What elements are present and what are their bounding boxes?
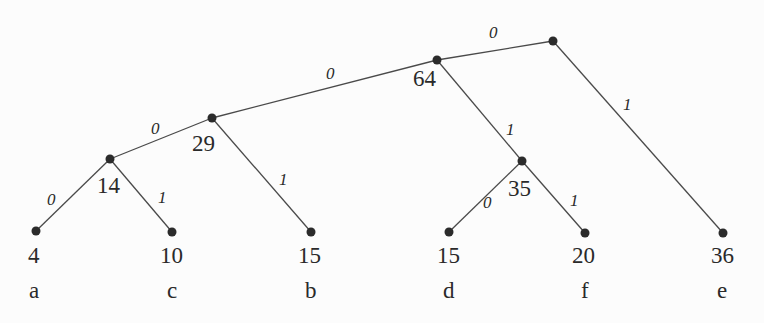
bit-label-n14-c: 1 — [158, 189, 167, 206]
edge-n29-b — [212, 118, 311, 232]
node-root — [549, 37, 558, 46]
nodes — [32, 37, 728, 238]
leaf-symbol-d: d — [443, 279, 455, 302]
leaf-symbol-b: b — [305, 279, 317, 302]
node-leaf-f — [581, 229, 590, 238]
tree-graphics — [0, 0, 764, 323]
node-leaf-d — [445, 228, 454, 237]
leaf-weight-e: 36 — [711, 244, 734, 267]
bit-label-n14-a: 0 — [47, 191, 56, 208]
bit-label-n35-d: 0 — [483, 194, 492, 211]
node-n35 — [518, 157, 527, 166]
bit-label-n29-n14: 0 — [151, 120, 160, 137]
bit-label-n35-f: 1 — [570, 192, 579, 209]
bit-label-n64-n35: 1 — [506, 121, 515, 138]
huffman-tree-diagram: 64 29 14 35 0 1 0 1 0 1 0 1 0 1 4 10 15 … — [0, 0, 764, 323]
bit-label-root-e: 1 — [623, 96, 632, 113]
leaf-symbol-c: c — [167, 279, 177, 302]
node-leaf-a — [32, 227, 41, 236]
internal-weight-n64: 64 — [413, 67, 436, 90]
leaf-weight-b: 15 — [298, 244, 321, 267]
node-leaf-b — [307, 228, 316, 237]
leaf-symbol-e: e — [717, 279, 727, 302]
leaf-symbol-a: a — [29, 279, 39, 302]
edges — [36, 41, 723, 233]
leaf-symbol-f: f — [581, 279, 589, 302]
leaf-weight-c: 10 — [160, 244, 183, 267]
internal-weight-n29: 29 — [192, 132, 215, 155]
node-n64 — [433, 56, 442, 65]
node-leaf-e — [719, 229, 728, 238]
node-n29 — [208, 114, 217, 123]
leaf-weight-d: 15 — [437, 244, 460, 267]
internal-weight-n14: 14 — [97, 174, 120, 197]
edge-n64-n29 — [212, 60, 437, 118]
edge-root-n64 — [437, 41, 553, 60]
edge-root-e — [553, 41, 723, 233]
bit-label-n64-n29: 0 — [326, 65, 335, 82]
leaf-weight-a: 4 — [28, 244, 40, 267]
bit-label-root-n64: 0 — [489, 24, 498, 41]
node-n14 — [106, 155, 115, 164]
edge-n64-n35 — [437, 60, 522, 161]
bit-label-n29-b: 1 — [279, 171, 288, 188]
node-leaf-c — [168, 228, 177, 237]
internal-weight-n35: 35 — [508, 177, 531, 200]
leaf-weight-f: 20 — [572, 244, 595, 267]
